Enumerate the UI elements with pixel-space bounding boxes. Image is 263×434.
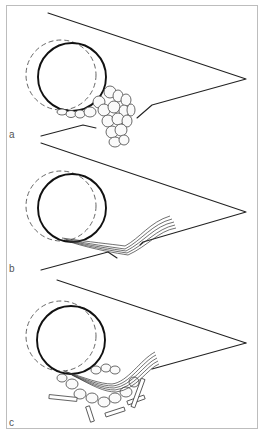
panel-label-a: a (9, 130, 15, 140)
globule-cluster-a (57, 86, 135, 147)
panel-label-c: c (9, 418, 14, 428)
wedge-outline-b (41, 143, 246, 245)
panel-c (26, 280, 246, 422)
lower-line-b (41, 252, 117, 270)
figure-illustration (0, 0, 263, 434)
panel-label-b: b (9, 264, 15, 274)
panel-b (26, 143, 246, 270)
lower-line-a (41, 125, 96, 136)
solid-circle-c (37, 306, 105, 374)
dashed-circle-b (26, 171, 96, 241)
dashed-circle-a (26, 40, 96, 110)
panel-a (26, 13, 246, 147)
wedge-upper-c (57, 280, 246, 343)
wedge-outline-a (48, 13, 246, 118)
wedge-lower-c (152, 343, 246, 369)
